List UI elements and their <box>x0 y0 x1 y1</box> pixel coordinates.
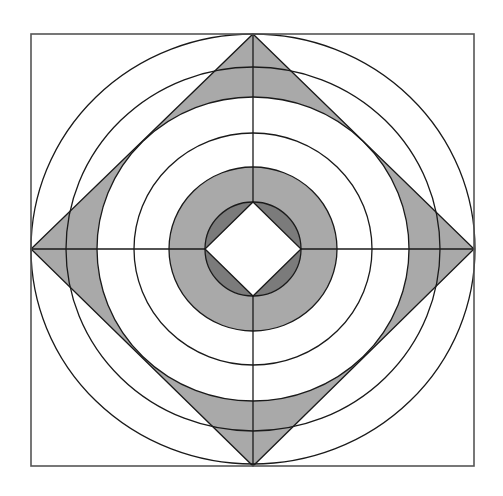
circle-6 <box>205 202 301 296</box>
concentric-diamond-diagram <box>0 0 503 496</box>
